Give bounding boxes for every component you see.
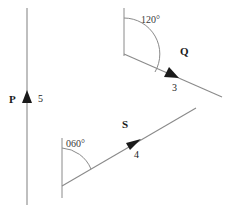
- label-vector-p: P: [9, 94, 16, 105]
- label-magnitude-q: 3: [172, 83, 177, 93]
- label-vector-s: S: [122, 119, 128, 130]
- vector-q-angle-arc: [124, 18, 160, 72]
- vector-diagram-canvas: [0, 0, 235, 212]
- label-magnitude-s: 4: [134, 150, 139, 160]
- vector-q-arrowhead: [164, 67, 179, 78]
- label-bearing-angle-q: 120°: [141, 15, 160, 25]
- vector-s-angle-arc: [62, 148, 91, 169]
- vector-diagram: P 5 Q 3 S 4 120° 060°: [0, 0, 235, 212]
- label-vector-q: Q: [180, 46, 189, 57]
- label-bearing-angle-s: 060°: [66, 139, 85, 149]
- label-magnitude-p: 5: [38, 94, 43, 104]
- vector-p-arrowhead: [22, 90, 32, 103]
